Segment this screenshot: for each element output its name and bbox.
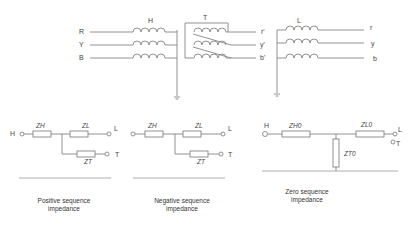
tertiary-label-r: r' [261, 28, 265, 35]
node-h-label: H [10, 130, 15, 137]
phase-label-r: R [79, 28, 84, 35]
winding-h-label: H [148, 17, 153, 24]
impedance-zt-label: ZT [83, 158, 93, 165]
impedance-zh0-label: ZH0 [288, 122, 302, 129]
winding-l-label: L [297, 17, 301, 24]
caption-zero-line1: Zero sequence [285, 188, 329, 196]
resistor-zt [77, 151, 95, 157]
winding-h-coils [133, 28, 165, 58]
impedance-zt-label: ZT [196, 158, 206, 165]
ground-icon [274, 94, 280, 96]
node-t-label: T [115, 151, 120, 158]
three-winding-transformer: R Y B H T [79, 14, 377, 99]
phase-label-y: Y [79, 41, 84, 48]
phase-label-b: B [79, 54, 84, 61]
tertiary-label-y: y' [260, 41, 265, 49]
winding-t-label: T [203, 14, 208, 21]
impedance-zl-label: ZL [194, 122, 203, 129]
winding-t-delta [185, 23, 256, 58]
output-label-y: y [371, 40, 375, 48]
node-h-label: H [264, 122, 269, 129]
caption-negative-line2: impedance [166, 205, 198, 213]
impedance-zl-label: ZL [81, 122, 90, 129]
resistor-zl [70, 131, 88, 137]
node-l-label: L [114, 125, 118, 132]
resistor-zl [183, 131, 201, 137]
node-t-label: T [396, 140, 401, 147]
impedance-zt0-label: ZT0 [343, 150, 356, 157]
impedance-zh-label: ZH [147, 122, 157, 129]
impedance-zh-label: ZH [35, 122, 45, 129]
node-l-label: L [228, 125, 232, 132]
resistor-zt [190, 151, 208, 157]
tertiary-label-b: b' [260, 54, 265, 61]
resistor-zt0 [333, 139, 339, 167]
impedance-zl0-label: ZL0 [360, 121, 373, 128]
zero-sequence-circuit: H ZH0 ZL0 L T ZT0 Zero sequence impedanc… [262, 121, 402, 204]
winding-l-coils [286, 26, 318, 58]
resistor-zh0 [282, 131, 310, 137]
node-t-label: T [228, 151, 233, 158]
ground-icon [174, 97, 180, 99]
resistor-zh [33, 131, 51, 137]
resistor-zl0 [356, 131, 384, 137]
caption-positive-line1: Positive sequence [38, 197, 91, 205]
caption-positive-line2: impedance [48, 205, 80, 213]
node-l-label: L [398, 126, 402, 133]
transformer-diagram: R Y B H T [0, 0, 415, 225]
output-label-r: r [370, 24, 373, 31]
caption-zero-line2: impedance [291, 196, 323, 204]
resistor-zh [145, 131, 163, 137]
negative-sequence-circuit: ZH ZL L ZT T Negative sequence impedance [131, 122, 233, 213]
output-label-b: b [373, 55, 377, 62]
caption-negative-line1: Negative sequence [154, 197, 210, 205]
positive-sequence-circuit: H ZH ZL L ZT T Positive sequence impedan… [10, 122, 120, 213]
